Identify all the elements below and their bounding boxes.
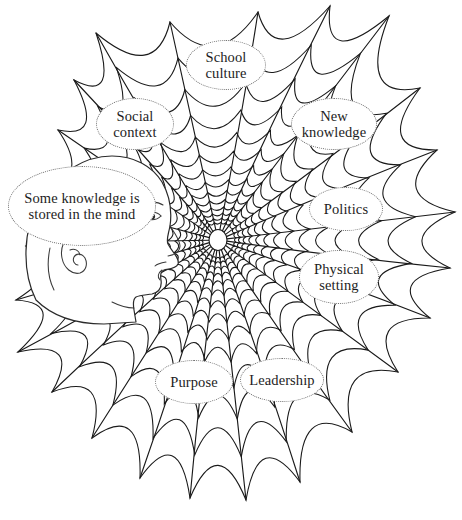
- label-new-knowledge[interactable]: New knowledge: [291, 98, 377, 150]
- label-school-culture[interactable]: School culture: [186, 40, 266, 90]
- label-physical-setting[interactable]: Physical setting: [299, 250, 379, 304]
- label-social-context[interactable]: Social context: [96, 98, 174, 150]
- diagram-canvas: School culture Social context New knowle…: [0, 0, 462, 520]
- label-purpose[interactable]: Purpose: [155, 360, 233, 404]
- label-text: Physical setting: [300, 261, 378, 293]
- label-text: Leadership: [245, 372, 318, 388]
- label-text: Politics: [320, 201, 372, 217]
- label-text: School culture: [187, 49, 265, 81]
- label-text: Some knowledge is stored in the mind: [9, 190, 155, 222]
- web-hub: [209, 230, 227, 251]
- label-leadership[interactable]: Leadership: [240, 358, 324, 402]
- label-politics[interactable]: Politics: [309, 187, 383, 231]
- label-text: New knowledge: [292, 108, 376, 140]
- label-text: Social context: [97, 108, 173, 140]
- label-some-knowledge-is-stored-in-the-mind[interactable]: Some knowledge is stored in the mind: [8, 166, 156, 246]
- label-text: Purpose: [166, 374, 221, 390]
